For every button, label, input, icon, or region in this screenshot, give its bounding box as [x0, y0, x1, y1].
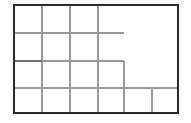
diagram-canvas	[0, 0, 191, 123]
line-diagram	[0, 0, 191, 123]
